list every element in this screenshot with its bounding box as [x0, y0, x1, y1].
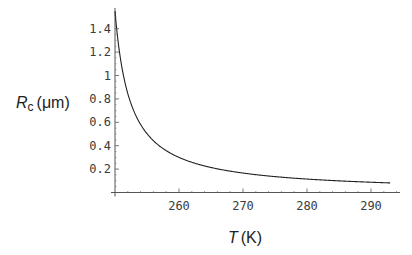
y-tick-label: 0.4	[89, 139, 111, 153]
y-tick-label: 1	[104, 69, 111, 83]
x-tick-label: 280	[296, 199, 318, 213]
y-tick-label: 1.2	[89, 45, 111, 59]
y-tick-label: 0.2	[89, 162, 111, 176]
y-tick-label: 0.6	[89, 115, 111, 129]
y-tick-label: 0.8	[89, 92, 111, 106]
chart: 2602702802900.20.40.60.811.21.4 Rc(μm) T…	[0, 0, 412, 255]
x-tick-label: 290	[360, 199, 382, 213]
x-tick-label: 260	[168, 199, 190, 213]
y-tick-label: 1.4	[89, 22, 111, 36]
x-tick-label: 270	[232, 199, 254, 213]
curve-Rc	[115, 11, 390, 183]
plot-area	[111, 8, 400, 197]
x-axis-label: T(K)	[228, 229, 262, 246]
y-axis-label: Rc(μm)	[16, 94, 70, 114]
